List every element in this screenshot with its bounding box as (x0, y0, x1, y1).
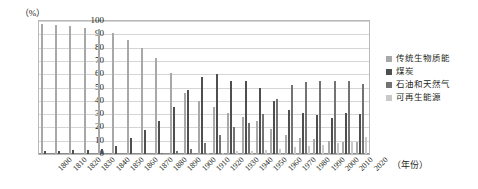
bar (219, 135, 221, 154)
bar-group (82, 21, 96, 154)
bar-group (254, 21, 268, 154)
bar (351, 142, 353, 154)
bar (72, 150, 74, 154)
bar (190, 149, 192, 154)
x-axis-tick-labels: 1800181018201830184018501860187018801890… (39, 156, 369, 189)
bar-group (226, 21, 240, 154)
legend-swatch-icon (386, 95, 392, 101)
bar (227, 113, 229, 154)
bar (331, 118, 333, 154)
bar (308, 146, 310, 154)
bar (288, 110, 290, 154)
bar (230, 81, 232, 154)
bar (294, 147, 296, 154)
x-axis-tick: 2020 (372, 156, 389, 173)
bar (337, 143, 339, 154)
bar (279, 149, 281, 154)
bar-group (312, 21, 326, 154)
legend-item[interactable]: 可再生能源 (386, 93, 450, 102)
bar (101, 149, 103, 154)
legend-item[interactable]: 煤炭 (386, 67, 450, 76)
bar (319, 81, 321, 154)
bar (158, 121, 160, 154)
bar (141, 48, 143, 154)
bar (161, 153, 163, 154)
bar (213, 107, 215, 154)
legend-item[interactable]: 传统生物质能 (386, 54, 450, 63)
bar (44, 151, 46, 154)
bar-group (96, 21, 110, 154)
bar (270, 129, 272, 154)
bar (242, 117, 244, 154)
chart-root: （%） 1009080706050403020100 1800181018201… (0, 0, 478, 189)
bar (256, 121, 258, 154)
bar (262, 114, 264, 154)
bar-group (297, 21, 311, 154)
bar (313, 139, 315, 154)
x-axis-unit-label: （年份） (392, 158, 428, 171)
legend-swatch-icon (386, 69, 392, 75)
y-axis-unit-label: （%） (20, 6, 45, 19)
bar (184, 93, 186, 154)
bar (41, 24, 43, 154)
bar-group (154, 21, 168, 154)
bar (233, 127, 235, 154)
bar (87, 150, 89, 154)
bar (173, 107, 175, 154)
bar (98, 29, 100, 154)
bar (155, 58, 157, 154)
bar (84, 28, 86, 154)
bar (365, 137, 367, 154)
bar-group (340, 21, 354, 154)
bar-group (355, 21, 369, 154)
legend-item-label: 煤炭 (396, 67, 414, 76)
bar (299, 138, 301, 154)
chart-legend: 传统生物质能煤炭石油和天然气可再生能源 (386, 54, 450, 102)
bar-group (53, 21, 67, 154)
bar (127, 40, 129, 154)
bar (236, 151, 238, 154)
bar-group (326, 21, 340, 154)
bar (362, 84, 364, 154)
bar (328, 141, 330, 154)
bar (245, 81, 247, 154)
bar-group (283, 21, 297, 154)
bar (207, 153, 209, 154)
bar (285, 135, 287, 154)
bar-group (197, 21, 211, 154)
bar-group (125, 21, 139, 154)
legend-item-label: 传统生物质能 (396, 54, 450, 63)
bar-group (168, 21, 182, 154)
bar (316, 115, 318, 154)
bar (69, 26, 71, 154)
bar (322, 145, 324, 154)
bar-group (182, 21, 196, 154)
bar (356, 142, 358, 154)
bar (204, 143, 206, 154)
bar (170, 73, 172, 154)
bar (273, 101, 275, 154)
bar (302, 113, 304, 154)
bar-group (211, 21, 225, 154)
bar (348, 81, 350, 154)
legend-swatch-icon (386, 82, 392, 88)
bar (342, 142, 344, 154)
bar (291, 85, 293, 154)
legend-item[interactable]: 石油和天然气 (386, 80, 450, 89)
bar (248, 123, 250, 154)
bar (359, 114, 361, 154)
bar (176, 151, 178, 154)
bar (58, 151, 60, 154)
bar (334, 81, 336, 154)
bar-group (269, 21, 283, 154)
bar (259, 88, 261, 155)
bar-group (139, 21, 153, 154)
bar (222, 153, 224, 154)
bar-group (111, 21, 125, 154)
bar (55, 25, 57, 154)
bar (216, 74, 218, 154)
bar (265, 150, 267, 154)
bar (251, 151, 253, 154)
bar (112, 33, 114, 154)
bar (198, 101, 200, 154)
